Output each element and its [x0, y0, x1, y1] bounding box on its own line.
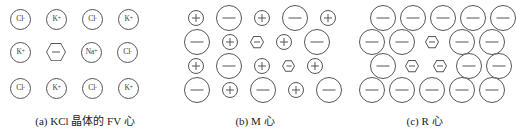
- anion-minus: [419, 77, 445, 103]
- panel-b-row-4: [170, 78, 340, 102]
- panel-c-lattice: [340, 0, 509, 104]
- anion-minus: [389, 77, 415, 103]
- ion-charge: -: [23, 16, 25, 22]
- anion-minus: [184, 29, 210, 55]
- cation-plus: [254, 10, 270, 26]
- ion-charge: -: [95, 85, 97, 91]
- anion-minus: [316, 77, 342, 103]
- ion-charge: +: [130, 85, 133, 91]
- panel-a: Cl- K+ Cl- K+ K+ Na+ Cl- Cl- K+ Cl- K+ (…: [0, 0, 170, 131]
- panel-b-row-3: [170, 54, 340, 78]
- cation-plus: [276, 34, 292, 50]
- ion-label: Cl: [16, 15, 23, 23]
- anion-minus: [460, 5, 486, 31]
- cation-plus: [288, 82, 304, 98]
- panel-c: (c) R 心: [340, 0, 509, 131]
- cation-plus: [320, 10, 336, 26]
- anion-minus: [400, 5, 426, 31]
- panel-b: (b) M 心: [170, 0, 340, 131]
- anion-minus: [216, 5, 242, 31]
- cation-plus: [222, 34, 238, 50]
- ion-k: K+: [46, 9, 67, 30]
- anion-minus: [456, 53, 482, 79]
- vacancy-hexagon: [433, 60, 447, 73]
- ion-label: Cl: [16, 84, 23, 92]
- ion-label: Cl: [88, 84, 95, 92]
- ion-charge: +: [22, 49, 25, 55]
- ion-na: Na+: [81, 42, 102, 63]
- vacancy-hexagon: [425, 36, 439, 49]
- ion-cl: Cl-: [10, 78, 31, 99]
- vacancy-hexagon: [405, 60, 419, 73]
- anion-minus: [490, 5, 516, 31]
- ion-label: Na: [86, 48, 94, 56]
- panel-c-row-2: [340, 30, 509, 54]
- ion-charge: -: [130, 49, 132, 55]
- ion-charge: +: [58, 85, 61, 91]
- anion-minus: [282, 5, 308, 31]
- ion-charge: +: [94, 49, 97, 55]
- panel-a-caption: (a) KCl 晶体的 FV 心: [0, 115, 170, 127]
- anion-minus: [430, 5, 456, 31]
- vacancy-hexagon: [250, 36, 264, 49]
- panel-c-caption: (c) R 心: [340, 115, 509, 127]
- panel-b-row-1: [170, 6, 340, 30]
- panel-a-row-2: K+ Na+ Cl-: [0, 39, 170, 65]
- anion-minus: [216, 53, 242, 79]
- ion-cl: Cl-: [82, 9, 103, 30]
- anion-minus: [486, 53, 512, 79]
- anion-minus: [449, 29, 475, 55]
- ion-charge: +: [130, 16, 133, 22]
- anion-minus: [359, 29, 385, 55]
- anion-minus: [479, 77, 505, 103]
- ion-cl: Cl-: [82, 78, 103, 99]
- panel-b-row-2: [170, 30, 340, 54]
- panel-b-caption: (b) M 心: [170, 115, 340, 127]
- vacancy-hexagon: [46, 43, 66, 62]
- panel-a-row-3: Cl- K+ Cl- K+: [0, 75, 170, 101]
- ion-label: Cl: [123, 48, 130, 56]
- anion-minus: [479, 29, 505, 55]
- panel-c-row-3: [340, 54, 509, 78]
- anion-minus: [304, 29, 330, 55]
- panel-b-lattice: [170, 0, 340, 104]
- ion-charge: -: [23, 85, 25, 91]
- vacancy-hexagon: [282, 60, 295, 72]
- ion-k: K+: [118, 9, 139, 30]
- cation-plus: [188, 10, 204, 26]
- cation-plus: [188, 58, 204, 74]
- ion-k: K+: [118, 78, 139, 99]
- anion-minus: [449, 77, 475, 103]
- ion-k: K+: [10, 42, 31, 63]
- anion-minus: [389, 29, 415, 55]
- anion-minus: [184, 77, 210, 103]
- ion-cl: Cl-: [10, 9, 31, 30]
- ion-k: K+: [46, 78, 67, 99]
- panel-c-row-4: [340, 78, 509, 102]
- panel-a-lattice: Cl- K+ Cl- K+ K+ Na+ Cl- Cl- K+ Cl- K+: [0, 0, 170, 104]
- anion-minus: [370, 53, 396, 79]
- cation-plus: [222, 82, 238, 98]
- anion-minus: [370, 5, 396, 31]
- panel-a-row-1: Cl- K+ Cl- K+: [0, 6, 170, 32]
- panel-c-row-1: [340, 6, 509, 30]
- cation-plus: [307, 58, 323, 74]
- ion-cl: Cl-: [117, 42, 138, 63]
- anion-minus: [250, 77, 276, 103]
- anion-minus: [359, 77, 385, 103]
- cation-plus: [254, 58, 270, 74]
- ion-label: Cl: [88, 15, 95, 23]
- ion-charge: -: [95, 16, 97, 22]
- ion-charge: +: [58, 16, 61, 22]
